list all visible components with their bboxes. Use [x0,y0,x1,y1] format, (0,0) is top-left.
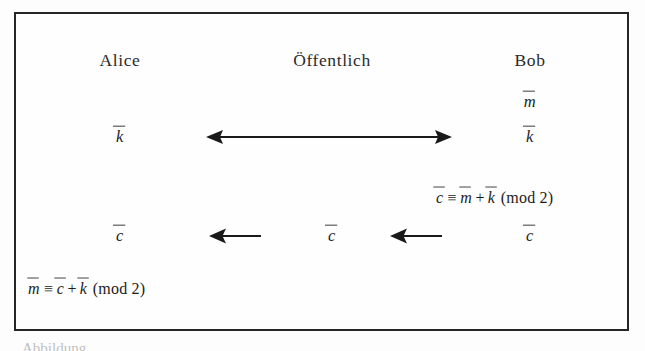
scanned-page-background: Alice Öffentlich Bob m k k c≡m+k(mod 2) [0,0,645,351]
symbol-k: k [526,127,533,146]
symbol-m: m [460,189,472,206]
symbol-k: k [80,280,87,297]
symbol-c: c [328,226,335,245]
symbol-m: m [28,280,40,297]
vector-c-glyph: c [436,190,444,206]
modulus-annotation: (mod 2) [87,280,145,297]
vector-c-glyph: c [116,228,124,245]
plus-operator: + [64,280,79,297]
symbol-c: c [116,226,123,245]
vector-c-glyph: c [526,228,534,245]
vector-k-glyph: k [80,281,88,297]
bob-message-vector: m [524,94,536,111]
vector-arrow-accent-icon [54,274,67,280]
vector-arrow-accent-icon [27,274,40,280]
vector-arrow-accent-icon [77,274,90,280]
symbol-m: m [524,92,536,111]
column-header-public-channel: Öffentlich [293,52,371,70]
figure-caption-cutoff: Abbildung [22,341,352,351]
symbol-k: k [116,127,123,146]
symbol-k: k [488,189,495,206]
vector-k-glyph: k [116,129,124,146]
vector-arrow-accent-icon [485,183,498,189]
vector-k-glyph: k [488,190,496,206]
ciphertext-transfer-arrow-left-1-icon [209,227,261,245]
vector-m-glyph: m [28,281,40,297]
ciphertext-transfer-arrow-left-2-icon [390,227,442,245]
column-header-bob: Bob [515,52,546,70]
bob-encryption-equation: c≡m+k(mod 2) [436,190,553,206]
alice-ciphertext-vector: c [116,228,124,245]
symbol-c: c [436,189,443,206]
vector-c-glyph: c [328,228,336,245]
congruence-relation-symbol: ≡ [444,189,461,206]
vector-m-glyph: m [460,190,472,206]
vector-arrow-accent-icon [433,183,446,189]
congruence-relation-symbol: ≡ [40,280,57,297]
plus-operator: + [472,189,487,206]
vector-m-glyph: m [524,94,536,111]
modulus-annotation: (mod 2) [495,189,553,206]
alice-key-vector: k [116,129,124,146]
key-exchange-double-arrow-icon [206,128,452,146]
alice-decryption-equation: m≡c+k(mod 2) [28,281,145,297]
vector-c-glyph: c [57,281,65,297]
vector-arrow-accent-icon [460,183,473,189]
column-header-alice: Alice [100,52,141,70]
figure-frame: Alice Öffentlich Bob m k k c≡m+k(mod 2) [14,12,629,331]
bob-key-vector: k [526,129,534,146]
bob-ciphertext-vector: c [526,228,534,245]
vector-k-glyph: k [526,129,534,146]
symbol-c: c [57,280,64,297]
symbol-c: c [526,226,533,245]
public-ciphertext-vector: c [328,228,336,245]
